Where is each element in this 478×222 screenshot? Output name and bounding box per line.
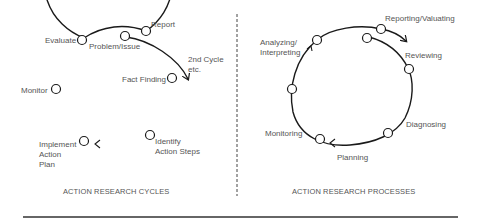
label-report: Report [151,20,176,29]
node-implement [80,137,89,146]
node-evaluate [78,36,87,45]
action-research-figure: Report Evaluate Problem/Issue 2nd Cycle … [0,0,478,222]
node-start [363,34,372,43]
label-action-steps: Action Steps [155,147,200,156]
label-identify: Identify [155,137,181,146]
processes-diagram: Reporting/Valuating Analyzing/ Interpret… [260,14,455,196]
caption-processes: ACTION RESEARCH PROCESSES [292,187,415,196]
caption-cycles: ACTION RESEARCH CYCLES [63,187,169,196]
node-monitoring-side [288,85,297,94]
label-planning: Planning [337,153,368,162]
label-implement: Implement [39,140,77,149]
node-reviewing [405,65,414,74]
cycles-diagram: Report Evaluate Problem/Issue 2nd Cycle … [21,0,224,196]
label-action: Action [39,150,61,159]
node-reporting [377,25,386,34]
label-analyzing: Analyzing/ [260,38,298,47]
label-problem-issue: Problem/Issue [89,42,141,51]
label-plan: Plan [39,160,55,169]
label-interpreting: Interpreting [260,48,300,57]
process-circle [291,27,412,145]
node-monitor [52,85,61,94]
label-etc: etc. [188,65,201,74]
node-monitoring [316,135,325,144]
cycle-circle-top [84,26,146,38]
label-second-cycle: 2nd Cycle [188,55,224,64]
label-reviewing: Reviewing [405,51,442,60]
node-report [142,27,151,36]
direction-arrow-planning-icon [330,139,335,147]
label-reporting-valuating: Reporting/Valuating [385,14,455,23]
label-diagnosing: Diagnosing [406,120,446,129]
label-fact-finding: Fact Finding [122,75,166,84]
label-monitor: Monitor [21,86,48,95]
cycle-circle [44,0,172,38]
node-identify [146,131,155,140]
node-problem [121,32,130,41]
node-diagnosing [384,129,393,138]
label-monitoring: Monitoring [265,129,302,138]
node-fact-finding [168,74,177,83]
label-evaluate: Evaluate [45,36,77,45]
direction-arrow-icon [95,140,100,148]
node-analyzing [313,36,322,45]
